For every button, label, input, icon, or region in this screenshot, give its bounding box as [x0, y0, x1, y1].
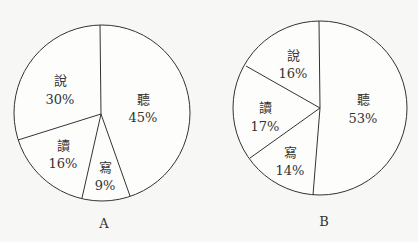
pie-b-slice-pct: 16% — [279, 66, 308, 81]
pie-a-slice-label: 聽 — [137, 92, 150, 107]
pie-a-slice-label: 讀 — [57, 138, 70, 153]
pie-b-slice-label: 寫 — [284, 145, 297, 160]
pie-b-slice-label: 讀 — [259, 100, 272, 115]
pie-a-slice-pct: 30% — [46, 92, 75, 107]
pie-b-slice-label: 聽 — [357, 92, 370, 107]
pie-b-slice-pct: 53% — [349, 111, 378, 126]
pie-b-caption: B — [319, 214, 329, 229]
pie-a-slice-label: 說 — [54, 73, 67, 88]
pie-a-slice-pct: 45% — [129, 110, 158, 125]
pie-a-slice-pct: 9% — [95, 178, 116, 193]
pie-b-slice-label: 說 — [287, 48, 300, 63]
pie-b-slice-pct: 17% — [251, 119, 280, 134]
pie-a-slice-label: 寫 — [99, 160, 112, 175]
pie-charts: 聽 45% 寫 9% 讀 16% 說 30% A 聽 53% 寫 14% 讀 1… — [0, 0, 418, 242]
pie-a-caption: A — [98, 216, 109, 231]
pie-chart-a: 聽 45% 寫 9% 讀 16% 說 30% A — [14, 25, 190, 231]
pie-b-slice-pct: 14% — [276, 163, 305, 178]
pie-a-slice-pct: 16% — [49, 156, 78, 171]
pie-chart-b: 聽 53% 寫 14% 讀 17% 說 16% B — [233, 21, 407, 229]
